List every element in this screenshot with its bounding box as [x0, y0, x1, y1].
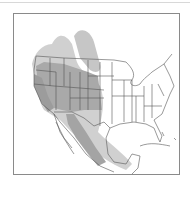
map-canvas	[14, 14, 180, 175]
range-map	[13, 13, 180, 175]
top-divider	[0, 2, 190, 3]
